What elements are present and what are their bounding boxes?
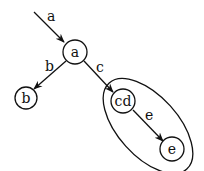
edge-a-cd: c <box>84 59 113 92</box>
edge-a-b-label: b <box>45 58 54 74</box>
node-e-label: e <box>168 141 176 157</box>
node-cd-label: cd <box>115 93 132 109</box>
node-a: a <box>63 40 87 64</box>
entry-edge: a <box>34 8 64 42</box>
state-diagram: a b c e a b cd e <box>0 0 204 171</box>
edge-cd-e-label: e <box>145 107 153 123</box>
node-e: e <box>160 137 184 161</box>
edge-a-b: b <box>34 58 66 89</box>
entry-edge-label: a <box>47 8 55 24</box>
node-a-label: a <box>71 44 79 60</box>
edge-a-cd-label: c <box>96 59 104 75</box>
node-b-label: b <box>22 90 31 106</box>
edge-cd-e: e <box>133 107 163 141</box>
node-cd: cd <box>111 89 135 113</box>
node-b: b <box>15 87 37 109</box>
